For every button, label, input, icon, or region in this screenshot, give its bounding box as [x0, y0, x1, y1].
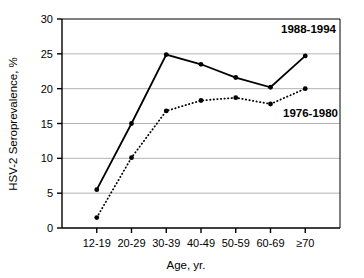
data-point-0-2: [164, 52, 169, 57]
data-point-1-6: [303, 86, 308, 91]
data-point-1-0: [94, 215, 99, 220]
x-tick-label-1: 20-29: [117, 237, 145, 249]
y-tick-label-5: 5: [47, 187, 53, 199]
y-axis-title: HSV-2 Seroprevalence, %: [7, 57, 19, 191]
data-point-0-6: [303, 54, 308, 59]
x-axis-tick-labels: 12-1920-2930-3940-4950-5960-69≥70: [83, 237, 315, 249]
x-tick-label-5: 60-69: [256, 237, 284, 249]
data-point-0-5: [268, 85, 273, 90]
data-point-1-4: [233, 95, 238, 100]
y-axis-tick-labels: 051015202530: [41, 13, 53, 234]
y-tick-label-25: 25: [41, 48, 53, 60]
data-point-0-3: [199, 62, 204, 67]
y-tick-label-30: 30: [41, 13, 53, 25]
y-tick-label-15: 15: [41, 118, 53, 130]
x-tick-label-6: ≥70: [296, 237, 314, 249]
data-point-1-2: [164, 109, 169, 114]
x-tick-label-2: 30-39: [152, 237, 180, 249]
data-point-0-1: [129, 121, 134, 126]
data-point-1-1: [129, 155, 134, 160]
series-annotation-0: 1988-1994: [281, 23, 337, 35]
x-tick-label-0: 12-19: [83, 237, 111, 249]
x-tick-label-4: 50-59: [222, 237, 250, 249]
seroprevalence-line-chart: 051015202530 12-1920-2930-3940-4950-5960…: [0, 0, 364, 278]
data-point-0-0: [94, 187, 99, 192]
series-annotation-1: 1976-1980: [283, 107, 338, 119]
x-axis-title: Age, yr.: [167, 259, 206, 271]
data-point-1-3: [199, 98, 204, 103]
x-tick-label-3: 40-49: [187, 237, 215, 249]
data-point-0-4: [233, 75, 238, 80]
y-axis-ticks: [57, 19, 62, 228]
y-tick-label-10: 10: [41, 152, 53, 164]
y-tick-label-20: 20: [41, 83, 53, 95]
data-point-1-5: [268, 102, 273, 107]
chart-figure: 051015202530 12-1920-2930-3940-4950-5960…: [0, 0, 364, 278]
y-tick-label-0: 0: [47, 222, 53, 234]
x-axis-ticks: [97, 228, 306, 233]
